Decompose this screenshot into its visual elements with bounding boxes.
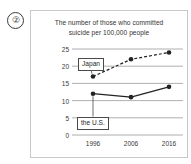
data-point-the-u-s--2016	[167, 85, 172, 90]
y-tick-label-25: 25	[53, 46, 69, 53]
x-tick-label-2006: 2006	[116, 140, 146, 147]
data-point-the-u-s--1996	[91, 91, 96, 96]
data-point-the-u-s--2006	[129, 95, 134, 100]
x-tick-label-2016: 2016	[154, 140, 184, 147]
data-point-japan-1996	[91, 74, 96, 79]
series-label-us: the U.S.	[77, 117, 109, 130]
plot-area: 25 20 15 10 5 0 1996 2006 2016 Japan the…	[31, 11, 187, 157]
question-number-badge: ②	[7, 12, 24, 29]
y-tick-label-10: 10	[53, 97, 69, 104]
y-tick-label-5: 5	[53, 114, 69, 121]
data-point-japan-2016	[167, 50, 172, 55]
x-tick-label-1996: 1996	[78, 140, 108, 147]
y-tick-label-0: 0	[53, 132, 69, 139]
y-tick-label-20: 20	[53, 63, 69, 70]
screenshot-root: ② The number of those who committed suic…	[0, 0, 191, 164]
y-tick-label-15: 15	[53, 80, 69, 87]
chart-panel: The number of those who committed suicid…	[30, 10, 188, 158]
series-label-japan: Japan	[78, 58, 104, 71]
data-point-japan-2006	[129, 57, 134, 62]
series-line-japan	[93, 52, 169, 76]
